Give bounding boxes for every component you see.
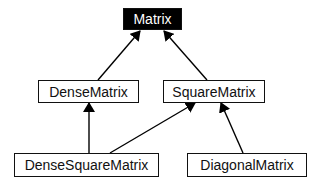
node-dense-square-matrix: DenseSquareMatrix [14,153,159,177]
node-matrix: Matrix [123,8,182,30]
edge-dense-to-matrix [98,31,140,80]
edge-diagonal-to-square [221,103,243,153]
node-diagonal-matrix: DiagonalMatrix [187,153,307,177]
node-square-matrix: SquareMatrix [163,80,265,103]
edge-square-to-matrix [164,31,207,80]
edge-densesquare-to-square [110,103,195,153]
node-dense-matrix: DenseMatrix [38,80,139,103]
